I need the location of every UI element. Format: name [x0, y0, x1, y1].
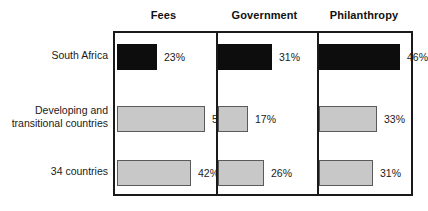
bar — [218, 44, 272, 70]
bar-group: 46% — [319, 44, 428, 70]
bar-group: 42% — [117, 160, 219, 186]
bar-group: 17% — [218, 106, 276, 132]
bar-group: 33% — [319, 106, 405, 132]
bar-value-label: 17% — [255, 113, 276, 125]
bar-value-label: 46% — [407, 51, 428, 63]
row-label-south-africa: South Africa — [0, 49, 108, 62]
bar — [319, 106, 377, 132]
bar-group: 31% — [319, 160, 401, 186]
bar-group: 31% — [218, 44, 300, 70]
bar-group: 50% — [117, 106, 233, 132]
bar — [117, 160, 191, 186]
bar — [117, 106, 205, 132]
bar-value-label: 23% — [164, 51, 185, 63]
bar-value-label: 42% — [198, 167, 219, 179]
bar-group: 23% — [117, 44, 185, 70]
bar — [218, 160, 264, 186]
bar — [319, 44, 400, 70]
bar — [319, 160, 373, 186]
plot-frame: 23%50%42%31%17%26%46%33%31% — [113, 31, 413, 196]
column-header-government: Government — [214, 9, 315, 21]
bar — [218, 106, 248, 132]
column-header-fees: Fees — [113, 9, 214, 21]
row-label-developing-and-transitional-countries: Developing and transitional countries — [0, 104, 108, 130]
column-header-philanthropy: Philanthropy — [315, 9, 413, 21]
row-label-34-countries: 34 countries — [0, 165, 108, 178]
bar-value-label: 31% — [279, 51, 300, 63]
bar-group: 26% — [218, 160, 292, 186]
bar — [117, 44, 157, 70]
bar-value-label: 26% — [271, 167, 292, 179]
bar-value-label: 33% — [384, 113, 405, 125]
bar-value-label: 31% — [380, 167, 401, 179]
